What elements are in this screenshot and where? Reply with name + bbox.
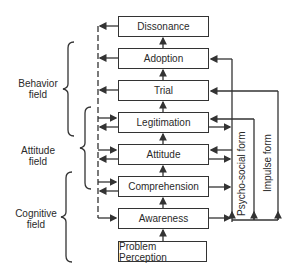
stage-attitude: Attitude (118, 144, 209, 165)
field-line2: field (12, 219, 60, 230)
field-line1: Cognitive (12, 208, 60, 219)
stage-comprehension: Comprehension (118, 176, 209, 197)
path-label-psycho-social: Psycho-social form (236, 132, 247, 216)
stage-label: Problem Perception (119, 241, 206, 263)
stage-label: Comprehension (128, 181, 199, 192)
stage-label: Attitude (147, 149, 181, 160)
stage-problem-perception: Problem Perception (118, 241, 207, 262)
field-label-cognitive: Cognitive field (12, 208, 60, 230)
field-label-attitude: Attitude field (14, 145, 62, 167)
stage-trial: Trial (118, 80, 209, 101)
stage-awareness: Awareness (118, 208, 209, 229)
stage-label: Adoption (144, 53, 183, 64)
field-line2: field (14, 156, 62, 167)
stage-adoption: Adoption (118, 48, 209, 69)
field-line1: Attitude (14, 145, 62, 156)
field-line2: field (14, 89, 62, 100)
stage-label: Legitimation (137, 117, 191, 128)
field-line1: Behavior (14, 78, 62, 89)
diagram-connectors (0, 0, 294, 278)
stage-dissonance: Dissonance (118, 16, 209, 37)
field-label-behavior: Behavior field (14, 78, 62, 100)
stage-legitimation: Legitimation (118, 112, 209, 133)
stage-label: Dissonance (137, 21, 189, 32)
stage-label: Awareness (139, 213, 188, 224)
stage-label: Trial (154, 85, 173, 96)
path-label-impulse: Impulse form (262, 134, 273, 192)
